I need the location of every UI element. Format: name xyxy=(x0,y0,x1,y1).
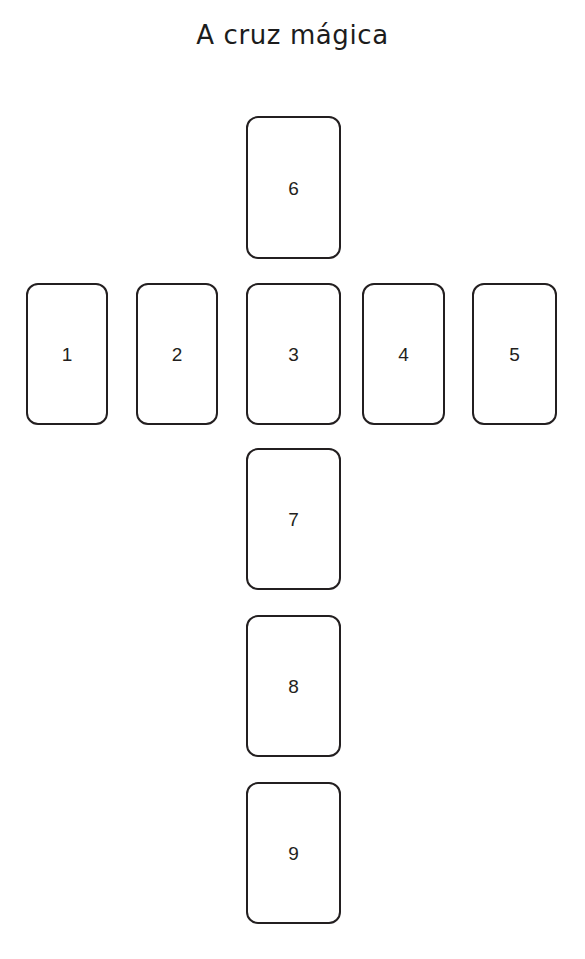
card-position-8[interactable]: 8 xyxy=(246,615,341,757)
card-position-2[interactable]: 2 xyxy=(136,283,218,425)
card-number-label: 7 xyxy=(248,510,339,529)
card-position-1[interactable]: 1 xyxy=(26,283,108,425)
card-number-label: 1 xyxy=(28,345,106,364)
card-position-7[interactable]: 7 xyxy=(246,448,341,590)
card-number-label: 9 xyxy=(248,844,339,863)
card-number-label: 6 xyxy=(248,178,339,197)
card-spread-canvas: A cruz mágica 6 1 2 3 4 5 7 8 9 xyxy=(0,0,585,959)
card-number-label: 2 xyxy=(138,345,216,364)
card-number-label: 3 xyxy=(248,345,339,364)
card-position-9[interactable]: 9 xyxy=(246,782,341,924)
card-position-4[interactable]: 4 xyxy=(362,283,445,425)
card-position-6[interactable]: 6 xyxy=(246,116,341,259)
card-position-3[interactable]: 3 xyxy=(246,283,341,425)
card-number-label: 5 xyxy=(474,345,555,364)
page-title: A cruz mágica xyxy=(0,18,585,52)
card-number-label: 8 xyxy=(248,677,339,696)
card-number-label: 4 xyxy=(364,345,443,364)
card-position-5[interactable]: 5 xyxy=(472,283,557,425)
